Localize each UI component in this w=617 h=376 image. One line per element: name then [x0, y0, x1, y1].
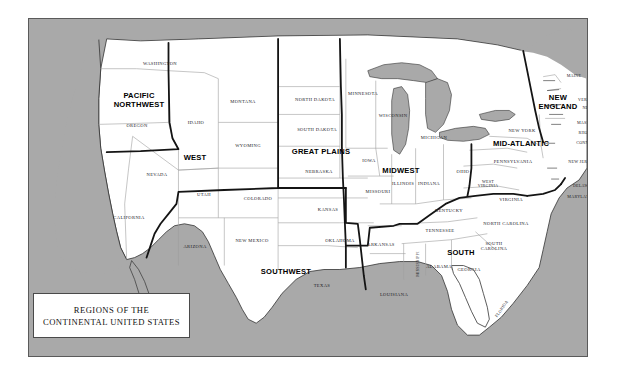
map-title-line2: CONTINENTAL UNITED STATES: [43, 317, 180, 327]
map-title-line1: REGIONS OF THE: [74, 305, 149, 315]
map-title-box: REGIONS OF THE CONTINENTAL UNITED STATES: [33, 293, 190, 338]
regions-map-figure: PACIFIC NORTHWEST WEST SOUTHWEST GREAT P…: [0, 0, 617, 376]
